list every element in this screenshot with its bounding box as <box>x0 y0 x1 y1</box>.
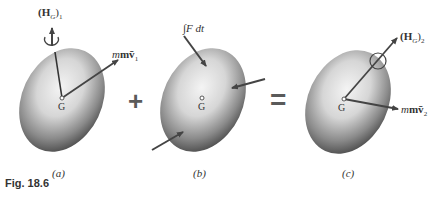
momentum-diagram <box>0 0 448 204</box>
center-label-b: G <box>198 101 205 112</box>
mass-center-c <box>342 97 346 101</box>
impulse-label: ∫F dt <box>183 22 204 34</box>
equals-operator: = <box>270 84 286 116</box>
panel-label-c: (c) <box>342 167 354 179</box>
center-label-c: G <box>338 102 345 113</box>
panel-b <box>144 34 265 166</box>
center-label-a: G <box>58 101 65 112</box>
figure-caption: Fig. 18.6 <box>5 177 49 189</box>
panel-label-a: (a) <box>52 167 65 179</box>
angular-momentum-label-c: (HG)2 <box>400 30 424 45</box>
linear-momentum-label-c: mmv̄2 <box>401 103 427 118</box>
linear-momentum-label-a: mmv̄1 <box>112 48 138 63</box>
panel-a <box>3 28 121 166</box>
mass-center-b <box>200 96 204 100</box>
mass-center-a <box>60 96 64 100</box>
angular-momentum-label-a: (HG)1 <box>38 6 62 21</box>
rigid-body-c <box>289 36 407 168</box>
plus-operator: + <box>128 86 143 117</box>
panel-label-b: (b) <box>193 167 206 179</box>
panel-c <box>289 36 407 168</box>
